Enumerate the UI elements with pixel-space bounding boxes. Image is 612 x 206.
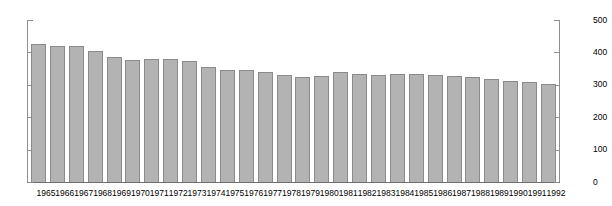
bar-1971[interactable] bbox=[144, 59, 159, 182]
y-tick-left bbox=[28, 182, 33, 183]
bar-1965[interactable] bbox=[31, 44, 46, 182]
x-axis-labels: 1965196619671968196919701971197219731974… bbox=[29, 188, 562, 202]
bar-1976[interactable] bbox=[239, 70, 254, 182]
bar-1966[interactable] bbox=[50, 46, 65, 182]
y-axis-right-tick-label: 100 bbox=[593, 145, 612, 154]
bar-1969[interactable] bbox=[107, 57, 122, 182]
y-axis-right-tick-label: 500 bbox=[593, 16, 612, 25]
y-axis-right-tick-label: 0 bbox=[593, 178, 612, 187]
bar-1972[interactable] bbox=[163, 59, 178, 182]
bar-1968[interactable] bbox=[88, 51, 103, 182]
bar-1970[interactable] bbox=[125, 60, 140, 182]
bar-1983[interactable] bbox=[371, 75, 386, 182]
y-axis-right-spine bbox=[559, 20, 560, 183]
bar-1981[interactable] bbox=[333, 72, 348, 182]
y-axis-right-tick-label: 300 bbox=[593, 80, 612, 89]
plot-area: 0100200300400500 0100200300400500 bbox=[27, 20, 560, 182]
bar-1979[interactable] bbox=[295, 77, 310, 182]
bar-1987[interactable] bbox=[447, 76, 462, 182]
bar-series bbox=[29, 20, 558, 182]
bar-1990[interactable] bbox=[503, 81, 518, 182]
bar-1967[interactable] bbox=[69, 46, 84, 182]
clipped-title-remnant bbox=[0, 0, 587, 2]
bar-1974[interactable] bbox=[201, 67, 216, 182]
bar-1985[interactable] bbox=[409, 74, 424, 182]
bar-1973[interactable] bbox=[182, 61, 197, 182]
bar-1978[interactable] bbox=[277, 75, 292, 182]
bar-1991[interactable] bbox=[522, 82, 537, 182]
y-axis-left-spine bbox=[27, 20, 28, 183]
bar-1982[interactable] bbox=[352, 74, 367, 182]
bar-1977[interactable] bbox=[258, 72, 273, 182]
bar-1989[interactable] bbox=[484, 79, 499, 182]
bar-1980[interactable] bbox=[314, 76, 329, 182]
y-tick-right bbox=[554, 182, 559, 183]
bar-1984[interactable] bbox=[390, 74, 405, 182]
bar-1992[interactable] bbox=[541, 84, 556, 182]
bar-1975[interactable] bbox=[220, 70, 235, 182]
y-axis-right-tick-label: 400 bbox=[593, 48, 612, 57]
bar-1988[interactable] bbox=[465, 77, 480, 182]
x-axis-tick-label-1992: 1992 bbox=[539, 188, 573, 199]
x-axis-baseline bbox=[27, 182, 560, 183]
y-axis-right-tick-label: 200 bbox=[593, 113, 612, 122]
bar-1986[interactable] bbox=[428, 75, 443, 182]
